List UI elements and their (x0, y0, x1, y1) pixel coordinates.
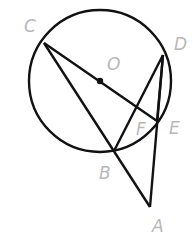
geometry-diagram: C D O F E B A (0, 0, 193, 247)
label-b: B (99, 163, 111, 183)
label-d: D (174, 34, 187, 54)
label-c: C (24, 16, 36, 36)
center-point-o (97, 78, 103, 84)
segment-ca (44, 43, 150, 207)
label-e: E (169, 118, 180, 138)
label-f: F (136, 119, 146, 139)
label-a: A (151, 216, 164, 236)
label-o: O (107, 54, 120, 74)
